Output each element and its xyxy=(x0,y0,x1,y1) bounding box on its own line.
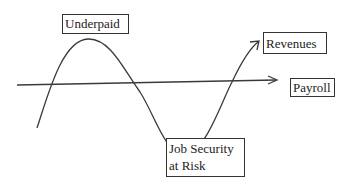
job-security-label: Job Security at Risk xyxy=(166,138,245,177)
underpaid-text: Underpaid xyxy=(65,16,120,31)
payroll-text: Payroll xyxy=(293,80,331,95)
revenues-text: Revenues xyxy=(266,36,317,51)
revenues-wave xyxy=(37,39,258,154)
job-security-line2: at Risk xyxy=(169,157,242,174)
underpaid-label: Underpaid xyxy=(62,14,129,34)
payroll-line xyxy=(17,80,276,85)
payroll-label: Payroll xyxy=(290,78,335,97)
revenues-label: Revenues xyxy=(263,32,327,54)
job-security-line1: Job Security xyxy=(169,140,242,157)
